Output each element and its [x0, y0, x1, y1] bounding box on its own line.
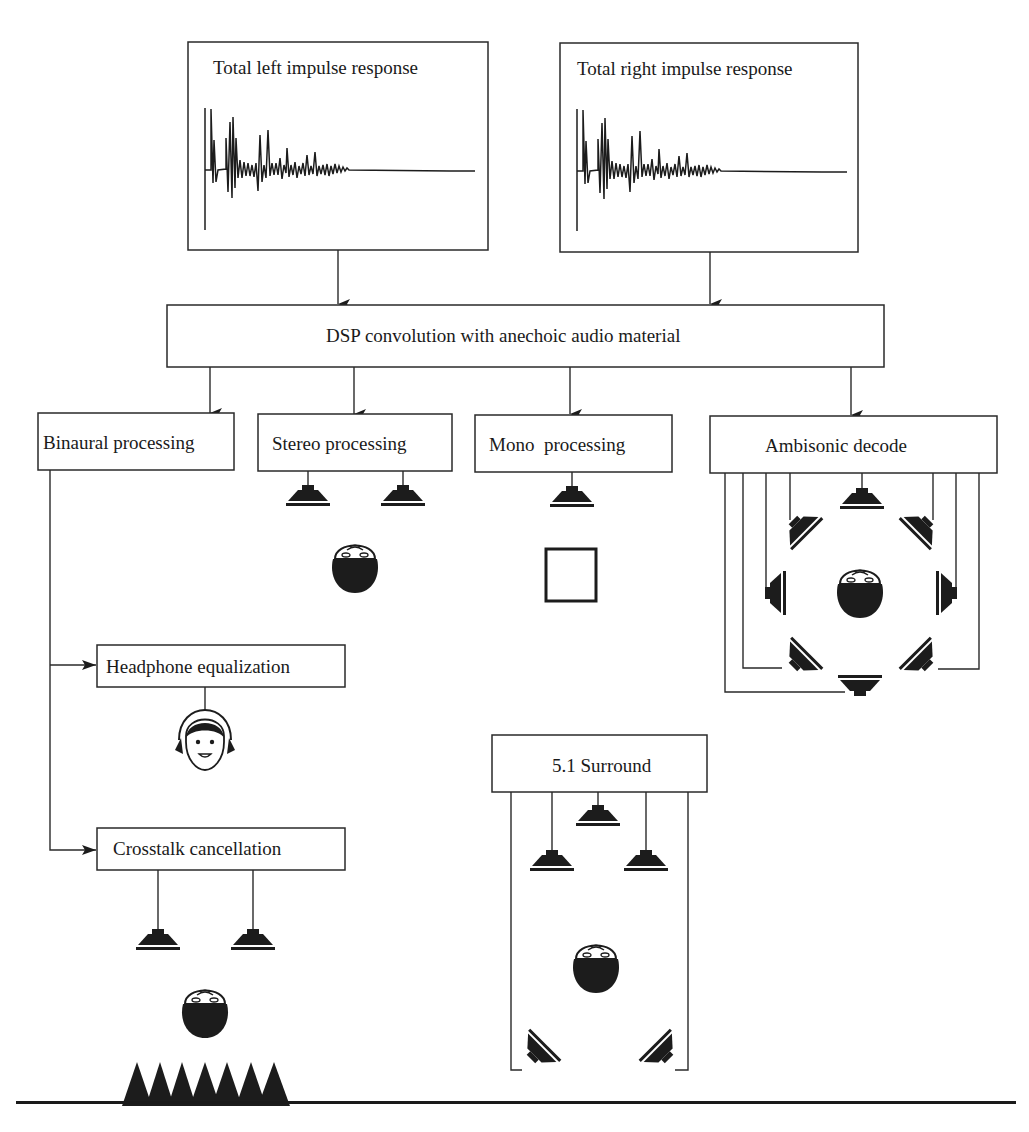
bottom-rule-divider: [16, 1101, 1016, 1104]
ambisonic-label: Ambisonic decode: [765, 436, 907, 455]
speaker-icon: [381, 485, 425, 506]
headphone-listener-icon: [175, 710, 235, 770]
impulse-left-title: Total left impulse response: [213, 58, 418, 77]
listener-head-icon: [837, 570, 883, 618]
stereo-setup: [286, 471, 425, 593]
mono-label: Mono processing: [489, 435, 625, 454]
crosstalk-label: Crosstalk cancellation: [113, 839, 281, 858]
stereo-label: Stereo processing: [272, 434, 407, 453]
speaker-icon: [286, 485, 330, 506]
acoustic-absorber-icon: [122, 1062, 290, 1106]
dsp-label: DSP convolution with anechoic audio mate…: [326, 326, 680, 345]
listener-head-icon: [332, 545, 378, 593]
mono-setup: [546, 472, 596, 601]
ambisonic-setup: [725, 473, 979, 696]
binaural-branches: [50, 470, 345, 1106]
headphone-eq-label: Headphone equalization: [106, 657, 290, 676]
speaker-icon: [550, 486, 594, 507]
impulse-right-title: Total right impulse response: [577, 59, 793, 78]
surround-setup: [492, 735, 707, 1075]
mono-listening-box-icon: [546, 549, 596, 601]
audio-rendering-diagram: Total left impulse response Total right …: [0, 0, 1029, 1132]
surround-label: 5.1 Surround: [552, 756, 651, 775]
binaural-label: Binaural processing: [43, 433, 194, 452]
